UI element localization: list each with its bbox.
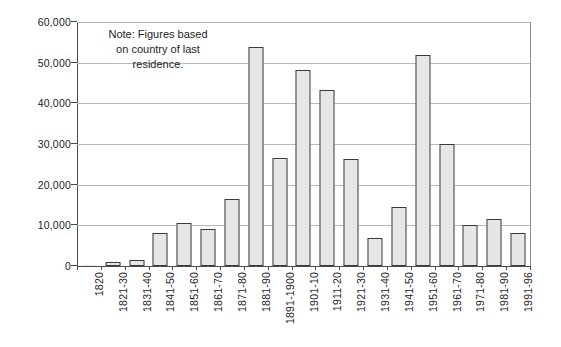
x-axis-label-1851-60: 1851-60	[188, 272, 200, 312]
x-tick-mark	[411, 266, 412, 270]
bar-slot	[506, 22, 530, 266]
bar-slot	[292, 22, 316, 266]
x-tick-mark	[363, 266, 364, 270]
bar-slot	[435, 22, 459, 266]
bar-1841-50[interactable]	[153, 233, 168, 266]
bar-1861-70[interactable]	[201, 229, 216, 266]
y-tick-label: 60,000	[38, 16, 71, 28]
x-tick-mark	[292, 266, 293, 270]
x-axis-label-1961-70: 1961-70	[451, 272, 463, 312]
x-axis-label-1901-10: 1901-10	[308, 272, 320, 312]
bar-1981-90[interactable]	[487, 219, 502, 266]
bar-slot	[411, 22, 435, 266]
x-axis-label-1820: 1820	[93, 272, 105, 296]
x-axis-label-1941-50: 1941-50	[403, 272, 415, 312]
y-tick-label: 50,000	[38, 57, 71, 69]
x-axis-label-1891-1900: 1891-1900	[284, 272, 296, 324]
x-axis-label-1911-20: 1911-20	[331, 272, 343, 311]
x-tick-mark	[149, 266, 150, 270]
x-axis-label-1971-80: 1971-80	[474, 272, 486, 312]
chart-note-line-1: Note: Figures based	[88, 27, 228, 42]
bar-slot	[339, 22, 363, 266]
x-axis-ticks	[77, 266, 530, 271]
x-axis-label-1871-80: 1871-80	[236, 272, 248, 312]
x-axis-label-1921-30: 1921-30	[355, 272, 367, 312]
x-axis-label-1821-30: 1821-30	[117, 272, 129, 312]
bar-1891-1900[interactable]	[272, 158, 287, 266]
bar-slot	[315, 22, 339, 266]
bar-1951-60[interactable]	[415, 55, 430, 266]
x-axis-labels: 18201821-301831-401841-501851-601861-701…	[77, 272, 530, 347]
chart-note: Note: Figures based on country of last r…	[88, 27, 228, 72]
x-axis-label-1841-50: 1841-50	[164, 272, 176, 312]
x-tick-mark	[387, 266, 388, 270]
bar-1901-10[interactable]	[296, 70, 311, 266]
chart-note-line-3: residence.	[88, 57, 228, 72]
y-tick-label: 10,000	[38, 219, 71, 231]
bar-1991-96[interactable]	[511, 233, 526, 266]
x-tick-mark	[458, 266, 459, 270]
bar-slot	[387, 22, 411, 266]
x-axis-label-1991-96: 1991-96	[522, 272, 534, 312]
bar-1931-40[interactable]	[368, 238, 383, 266]
bar-1971-80[interactable]	[463, 225, 478, 266]
x-tick-mark	[101, 266, 102, 270]
bar-1911-20[interactable]	[320, 90, 335, 266]
x-axis-label-1951-60: 1951-60	[427, 272, 439, 312]
y-tick-label: 30,000	[38, 138, 71, 150]
x-tick-mark	[315, 266, 316, 270]
bar-1941-50[interactable]	[391, 207, 406, 266]
x-tick-mark	[339, 266, 340, 270]
bar-1851-60[interactable]	[177, 223, 192, 267]
x-tick-mark	[77, 266, 78, 270]
x-tick-mark	[482, 266, 483, 270]
x-tick-mark	[530, 266, 531, 270]
x-tick-mark	[220, 266, 221, 270]
x-axis-label-1831-40: 1831-40	[141, 272, 153, 312]
bar-slot	[363, 22, 387, 266]
x-tick-mark	[172, 266, 173, 270]
x-tick-mark	[125, 266, 126, 270]
x-tick-mark	[268, 266, 269, 270]
bar-slot	[458, 22, 482, 266]
x-tick-mark	[244, 266, 245, 270]
x-axis-label-1931-40: 1931-40	[379, 272, 391, 312]
bar-1871-80[interactable]	[224, 199, 239, 266]
bar-1961-70[interactable]	[439, 144, 454, 266]
x-tick-mark	[435, 266, 436, 270]
y-tick-label: 20,000	[38, 179, 71, 191]
bar-slot	[244, 22, 268, 266]
x-axis-label-1881-90: 1881-90	[260, 272, 272, 312]
bar-1881-90[interactable]	[248, 47, 263, 266]
chart-note-line-2: on country of last	[88, 42, 228, 57]
x-tick-mark	[506, 266, 507, 270]
x-tick-mark	[196, 266, 197, 270]
x-axis-label-1981-90: 1981-90	[498, 272, 510, 312]
y-tick-label: 0	[65, 260, 71, 272]
bar-chart: 010,00020,00030,00040,00050,00060,000 18…	[0, 0, 561, 347]
plot-right-border	[530, 22, 531, 267]
x-axis-label-1861-70: 1861-70	[212, 272, 224, 312]
bar-slot	[268, 22, 292, 266]
bar-slot	[482, 22, 506, 266]
y-tick-label: 40,000	[38, 97, 71, 109]
bar-1921-30[interactable]	[344, 159, 359, 266]
